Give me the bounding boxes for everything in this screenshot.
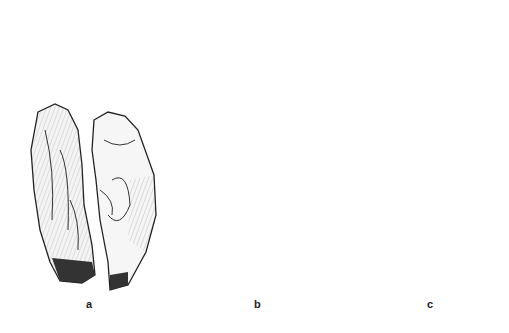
- artifact-a-view-1: [31, 104, 95, 283]
- label-c: c: [427, 298, 433, 310]
- label-b: b: [254, 298, 261, 310]
- label-a: a: [86, 298, 92, 310]
- artifact-a-view-2: [92, 112, 156, 290]
- illustration: [0, 0, 509, 333]
